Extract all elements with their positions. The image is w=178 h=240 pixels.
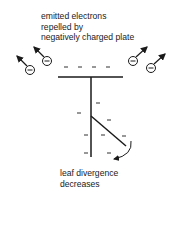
bottom-caption-line-2: decreases xyxy=(60,179,118,190)
gold-leaf xyxy=(91,116,126,146)
electron-right-outer xyxy=(147,54,166,73)
arrow-icon xyxy=(17,56,27,66)
electron-left-inner xyxy=(34,47,52,66)
stem-charges xyxy=(77,103,126,153)
arrow-icon xyxy=(34,47,44,57)
arrow-icon xyxy=(136,47,147,57)
bottom-caption: leaf divergence decreases xyxy=(60,168,118,189)
bottom-caption-line-1: leaf divergence xyxy=(60,168,118,179)
electron-right-inner xyxy=(129,47,148,66)
arrow-icon xyxy=(154,54,165,64)
electron-left-outer xyxy=(17,56,35,75)
